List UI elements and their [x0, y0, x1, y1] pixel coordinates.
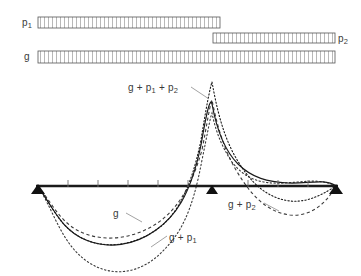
load-bar-p2: [213, 33, 335, 43]
annotation-g-p1-p2: g + p1 + p2: [128, 82, 178, 94]
annotation-g-p1-base: g + p: [169, 232, 193, 243]
load-label-g: g: [24, 51, 30, 62]
leader-g-p1: [151, 236, 167, 247]
curve-g: [38, 102, 336, 245]
annotation-g-p2-base: g + p: [228, 199, 252, 210]
load-bar-g: [38, 51, 335, 63]
curve-g-plus-p1-plus-p2: [38, 82, 336, 245]
leader-g-p2: [264, 203, 279, 211]
annotation-g-text: g: [113, 208, 119, 219]
annotation-leaders: [126, 87, 279, 247]
figure-canvas: p1 p2 g g + p1 + p2 g g + p1 g + p2: [0, 0, 361, 276]
load-label-p2: p2: [338, 33, 348, 45]
annotation-g-p1-sub: 1: [193, 236, 197, 245]
leader-g: [126, 213, 142, 222]
load-label-p2-sub: 2: [344, 37, 348, 46]
annotation-g: g: [113, 208, 119, 219]
annotation-g-p1-p2-sub2: 2: [174, 86, 178, 95]
annotation-g-p1-p2-sub1: 1: [152, 86, 156, 95]
load-label-p2-base: p: [338, 33, 344, 44]
curve-g-plus-p2: [38, 100, 336, 238]
annotation-g-p1-p2-base: g + p: [128, 82, 152, 93]
load-label-p1-base: p: [22, 17, 28, 28]
load-bar-p1: [38, 17, 220, 28]
annotation-g-p2: g + p2: [228, 199, 256, 211]
annotation-g-p2-sub: 2: [252, 203, 256, 212]
load-label-p1: p1: [22, 17, 32, 29]
load-label-p1-sub: 1: [28, 21, 32, 30]
annotation-g-p1: g + p1: [169, 232, 197, 244]
load-label-g-base: g: [24, 51, 30, 62]
annotation-g-p1-p2-plus: + p: [156, 82, 174, 93]
leader-g-p1-p2: [191, 87, 209, 99]
